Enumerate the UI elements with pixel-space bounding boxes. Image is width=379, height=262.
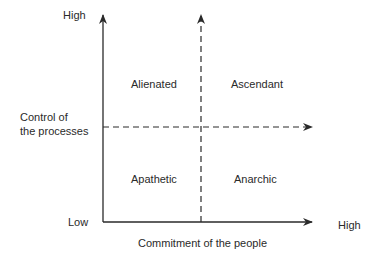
quadrant-bottom-right: Anarchic [234,173,277,186]
y-axis-low-label: Low [68,216,88,229]
quadrant-top-left: Alienated [131,78,177,91]
y-axis-high-label: High [63,9,86,22]
y-axis-label-line1: Control of [20,111,68,124]
x-axis-label: Commitment of the people [138,237,267,250]
x-axis-high-label: High [338,219,361,232]
y-axis-label-line2: the processes [20,125,88,138]
quadrant-bottom-left: Apathetic [131,173,177,186]
quadrant-top-right: Ascendant [231,78,283,91]
